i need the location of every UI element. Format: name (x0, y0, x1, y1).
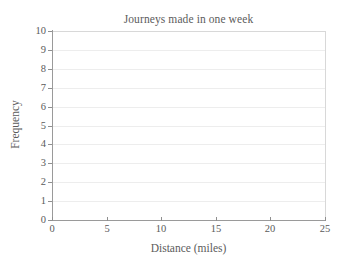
gridline-y-6 (52, 107, 325, 108)
gridline-y-2 (52, 182, 325, 183)
gridline-y-5 (52, 126, 325, 127)
y-tick-mark-9 (48, 50, 52, 51)
y-tick-label-7: 7 (20, 82, 46, 93)
y-tick-label-8: 8 (20, 63, 46, 74)
x-tick-mark-5 (107, 217, 108, 221)
y-tick-label-2: 2 (20, 176, 46, 187)
y-tick-label-9: 9 (20, 44, 46, 55)
y-tick-label-5: 5 (20, 120, 46, 131)
gridline-y-7 (52, 88, 325, 89)
y-tick-mark-1 (48, 201, 52, 202)
x-tick-label-25: 25 (310, 223, 340, 235)
y-tick-label-10: 10 (20, 25, 46, 36)
x-tick-label-20: 20 (255, 223, 285, 235)
y-tick-label-3: 3 (20, 157, 46, 168)
chart-container: Journeys made in one week 10 9 8 7 6 5 4… (0, 0, 346, 270)
plot-frame-top (52, 31, 326, 32)
y-tick-label-1: 1 (20, 195, 46, 206)
x-tick-mark-10 (161, 217, 162, 221)
plot-frame-right (325, 31, 326, 221)
y-tick-mark-3 (48, 163, 52, 164)
y-tick-label-6: 6 (20, 101, 46, 112)
x-tick-mark-25 (325, 217, 326, 221)
y-axis-title: Frequency (9, 65, 22, 185)
x-tick-label-15: 15 (201, 223, 231, 235)
gridline-y-8 (52, 69, 325, 70)
plot-area (52, 31, 325, 220)
y-tick-mark-2 (48, 182, 52, 183)
y-tick-mark-8 (48, 69, 52, 70)
x-axis-line (52, 220, 326, 221)
y-tick-mark-6 (48, 107, 52, 108)
x-tick-mark-20 (270, 217, 271, 221)
chart-title: Journeys made in one week (52, 13, 325, 26)
x-tick-label-5: 5 (92, 223, 122, 235)
y-tick-mark-10 (48, 31, 52, 32)
y-tick-mark-5 (48, 126, 52, 127)
y-tick-label-4: 4 (20, 138, 46, 149)
x-axis-title: Distance (miles) (52, 242, 325, 255)
y-axis-line (52, 30, 53, 221)
x-tick-label-0: 0 (37, 223, 67, 235)
x-tick-mark-15 (216, 217, 217, 221)
gridline-y-3 (52, 163, 325, 164)
x-tick-label-10: 10 (146, 223, 176, 235)
gridline-y-1 (52, 201, 325, 202)
gridline-y-9 (52, 50, 325, 51)
y-tick-mark-7 (48, 88, 52, 89)
y-tick-mark-4 (48, 144, 52, 145)
x-tick-mark-0 (52, 217, 53, 221)
gridline-y-4 (52, 144, 325, 145)
